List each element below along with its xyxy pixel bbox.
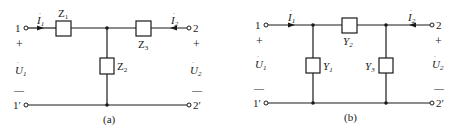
element-label-y1: Y1 [323, 60, 333, 74]
junction-b-top-left [311, 23, 315, 27]
voltage-plus-b-1: + [256, 34, 263, 48]
element-label-z2: Z2 [117, 60, 128, 74]
voltage-minus-a-1: — [13, 85, 25, 96]
terminal-b-2 [430, 23, 434, 27]
phasor-dot-a-u2: · [192, 60, 194, 66]
caption-a: (a) [103, 113, 116, 126]
voltage-label-b-u2: U2 [432, 58, 444, 72]
voltage-label-a-u1: U1 [15, 64, 26, 78]
terminal-a-1prime [24, 103, 28, 107]
admittance-y2-box [342, 18, 357, 33]
voltage-plus-a-1: + [16, 37, 23, 51]
phasor-dot-a-i2: · [173, 11, 175, 17]
element-label-z1: Z1 [58, 7, 69, 21]
port-label-b-2prime: 2′ [436, 97, 444, 109]
panel-a-t-network: 1 1′ 2 2′ I1 I2 · · Z1 Z3 Z2 + U1 · — + … [13, 7, 203, 126]
port-label-b-2: 2 [436, 19, 442, 31]
impedance-z1-box [56, 21, 71, 36]
phasor-dot-a-u1: · [17, 60, 19, 66]
terminal-b-1prime [264, 101, 268, 105]
impedance-z3-box [136, 21, 151, 36]
terminal-a-1 [24, 26, 28, 30]
voltage-label-b-u1: U1 [255, 58, 266, 72]
junction-a-bottom [105, 103, 109, 107]
phasor-dot-b-u1: · [257, 54, 259, 60]
caption-b: (b) [344, 111, 357, 124]
junction-b-bottom-right [384, 101, 388, 105]
phasor-dot-b-u2: · [434, 54, 436, 60]
voltage-minus-a-2: — [191, 85, 203, 96]
voltage-plus-b-2: + [435, 34, 442, 48]
port-label-a-1prime: 1′ [13, 99, 21, 111]
voltage-minus-b-1: — [253, 83, 265, 94]
element-label-z3: Z3 [138, 38, 149, 52]
impedance-z2-box [100, 58, 114, 74]
panel-b-pi-network: 1 1′ 2 2′ I1 I2 · · Y2 Y1 Y3 + U1 · — + … [253, 8, 445, 124]
terminal-b-1 [264, 23, 268, 27]
port-label-a-2: 2 [193, 22, 199, 34]
terminal-a-2prime [187, 103, 191, 107]
port-label-b-1prime: 1′ [253, 97, 261, 109]
element-label-y2: Y2 [343, 35, 353, 49]
element-label-y3: Y3 [365, 60, 375, 74]
port-label-b-1: 1 [255, 19, 261, 31]
junction-b-top-right [384, 23, 388, 27]
phasor-dot-a-i1: · [39, 11, 41, 17]
junction-a-top [105, 26, 109, 30]
admittance-y3-box [379, 58, 393, 73]
terminal-b-2prime [430, 101, 434, 105]
voltage-minus-b-2: — [433, 83, 445, 94]
terminal-a-2 [187, 26, 191, 30]
junction-b-bottom-left [311, 101, 315, 105]
phasor-dot-b-i1: · [290, 8, 292, 14]
phasor-dot-b-i2: · [410, 8, 412, 14]
voltage-plus-a-2: + [193, 37, 200, 51]
voltage-label-a-u2: U2 [190, 64, 202, 78]
port-label-a-1: 1 [15, 22, 21, 34]
port-label-a-2prime: 2′ [193, 99, 201, 111]
admittance-y1-box [306, 58, 320, 73]
